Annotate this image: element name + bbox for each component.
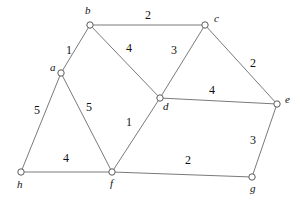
edge-d-e xyxy=(163,98,274,104)
edge-c-d xyxy=(162,28,204,96)
graph-canvas: 214325514342 abcdefgh xyxy=(0,0,302,202)
node-a[interactable] xyxy=(58,70,64,76)
edge-weight-d-e: 4 xyxy=(209,83,215,97)
node-label-h: h xyxy=(17,178,23,190)
edge-f-g xyxy=(115,172,249,177)
edge-b-d xyxy=(92,27,158,95)
node-label-d: d xyxy=(163,100,169,112)
edge-weight-a-h: 5 xyxy=(34,103,40,117)
edge-a-h xyxy=(22,76,60,169)
node-label-b: b xyxy=(85,4,91,16)
node-e[interactable] xyxy=(274,101,280,107)
node-label-a: a xyxy=(50,61,56,73)
node-label-c: c xyxy=(214,12,219,24)
node-f[interactable] xyxy=(109,169,115,175)
edges-layer xyxy=(22,25,276,177)
edge-weight-c-d: 3 xyxy=(171,43,177,57)
node-label-g: g xyxy=(250,182,256,194)
edge-weight-e-g: 3 xyxy=(250,133,256,147)
edge-c-e xyxy=(207,27,275,101)
edge-weights-layer: 214325514342 xyxy=(34,8,256,167)
edge-weight-b-c: 2 xyxy=(145,8,151,22)
edge-weight-a-b: 1 xyxy=(66,43,72,57)
node-label-e: e xyxy=(285,93,290,105)
node-c[interactable] xyxy=(202,22,208,28)
edge-e-g xyxy=(253,107,276,174)
edge-a-f xyxy=(62,76,110,169)
edge-d-f xyxy=(114,101,159,170)
edge-weight-a-f: 5 xyxy=(86,100,92,114)
node-g[interactable] xyxy=(249,174,255,180)
edge-weight-b-d: 4 xyxy=(126,41,132,55)
edge-weight-d-f: 1 xyxy=(126,115,132,129)
edge-weight-h-f: 4 xyxy=(63,151,69,165)
edge-weight-c-e: 2 xyxy=(250,56,256,70)
nodes-layer xyxy=(18,22,280,180)
edge-weight-f-g: 2 xyxy=(185,153,191,167)
node-h[interactable] xyxy=(18,169,24,175)
graph-diagram: 214325514342 abcdefgh xyxy=(0,0,302,202)
node-label-f: f xyxy=(110,177,115,189)
node-b[interactable] xyxy=(87,22,93,28)
node-labels-layer: abcdefgh xyxy=(17,4,290,194)
